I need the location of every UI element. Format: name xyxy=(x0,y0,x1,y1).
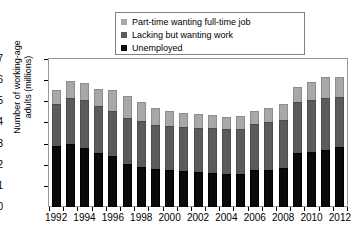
bar-stack xyxy=(208,115,217,207)
bar-stack xyxy=(165,111,174,207)
bar-segment-part-time xyxy=(194,114,203,128)
x-axis-tick-mark xyxy=(148,207,149,211)
bar-stack xyxy=(66,81,75,207)
bar-segment-lacking-wanting xyxy=(137,121,146,166)
bar-segment-lacking-wanting xyxy=(80,100,89,148)
bar-segment-unemployed xyxy=(165,170,174,207)
bar-segment-part-time xyxy=(151,108,160,125)
y-axis-tick-label: 6 xyxy=(0,75,3,85)
bar-segment-part-time xyxy=(307,82,316,100)
bar-segment-lacking-wanting xyxy=(250,124,259,171)
bar-segment-lacking-wanting xyxy=(108,111,117,156)
x-axis-tick-mark xyxy=(205,207,206,211)
bar-segment-unemployed xyxy=(52,146,61,207)
bar-segment-part-time xyxy=(222,117,231,129)
bar-stack xyxy=(321,77,330,207)
bar-segment-part-time xyxy=(179,113,188,127)
bar-segment-part-time xyxy=(66,81,75,98)
bar-segment-lacking-wanting xyxy=(321,98,330,150)
x-axis-tick-mark xyxy=(347,207,348,211)
bar-segment-lacking-wanting xyxy=(66,98,75,143)
y-axis-tick-mark xyxy=(44,80,48,81)
bar-segment-part-time xyxy=(208,115,217,128)
bar-segment-unemployed xyxy=(222,174,231,207)
x-axis-tick-label: 2012 xyxy=(320,212,356,224)
bar-segment-unemployed xyxy=(307,152,316,207)
y-axis-tick-label: 1 xyxy=(0,181,3,191)
bar-stack xyxy=(137,102,146,207)
x-axis-tick-mark xyxy=(163,207,164,211)
bar-stack xyxy=(194,114,203,207)
bar-segment-unemployed xyxy=(208,173,217,207)
x-axis-tick-mark xyxy=(92,207,93,211)
y-axis-tick-mark xyxy=(44,101,48,102)
bar-segment-lacking-wanting xyxy=(123,118,132,163)
bar-stack xyxy=(250,111,259,207)
bar-segment-part-time xyxy=(137,102,146,121)
x-axis-tick-mark xyxy=(134,207,135,211)
bar-stack xyxy=(307,82,316,207)
bar-segment-unemployed xyxy=(279,168,288,207)
x-axis-tick-mark xyxy=(333,207,334,211)
bar-segment-lacking-wanting xyxy=(307,100,316,152)
bar-segment-unemployed xyxy=(137,167,146,207)
x-axis-tick-mark xyxy=(120,207,121,211)
bar-stack xyxy=(151,108,160,207)
x-axis-tick-mark xyxy=(319,207,320,211)
bar-stack xyxy=(222,117,231,207)
bar-segment-lacking-wanting xyxy=(94,106,103,154)
y-axis-tick-label: 3 xyxy=(0,139,3,149)
bar-stack xyxy=(335,77,344,207)
bar-segment-unemployed xyxy=(264,170,273,207)
y-axis-tick-label: 5 xyxy=(0,96,3,106)
bar-stack xyxy=(279,104,288,207)
y-axis-tick-label: 7 xyxy=(0,54,3,64)
y-axis-tick-mark xyxy=(44,122,48,123)
x-axis-tick-mark xyxy=(262,207,263,211)
bar-stack xyxy=(293,87,302,207)
bar-segment-part-time xyxy=(293,87,302,103)
bar-segment-lacking-wanting xyxy=(165,126,174,170)
x-axis-tick-mark xyxy=(290,207,291,211)
bar-segment-lacking-wanting xyxy=(222,129,231,174)
y-axis-tick-mark xyxy=(44,165,48,166)
bar-segment-part-time xyxy=(123,96,132,118)
bar-segment-unemployed xyxy=(151,169,160,207)
x-axis-tick-mark xyxy=(276,207,277,211)
bar-segment-unemployed xyxy=(94,153,103,207)
y-axis-tick-label: 2 xyxy=(0,160,3,170)
stacked-bar-chart: Part-time wanting full-time job Lacking … xyxy=(0,0,356,231)
bar-segment-lacking-wanting xyxy=(179,127,188,171)
bar-segment-lacking-wanting xyxy=(335,97,344,147)
bar-segment-part-time xyxy=(52,90,61,105)
y-axis-tick-mark xyxy=(44,144,48,145)
bar-segment-part-time xyxy=(165,111,174,126)
bar-segment-unemployed xyxy=(66,144,75,207)
bar-segment-part-time xyxy=(80,83,89,100)
y-axis-tick-label: 4 xyxy=(0,117,3,127)
bar-segment-part-time xyxy=(321,77,330,98)
bar-stack xyxy=(94,89,103,207)
x-axis-labels: 1992199419961998200020022004200620082010… xyxy=(49,212,347,226)
x-axis-tick-mark xyxy=(77,207,78,211)
x-axis-tick-mark xyxy=(177,207,178,211)
x-axis-tick-mark xyxy=(106,207,107,211)
bar-segment-part-time xyxy=(236,116,245,129)
x-axis-tick-mark xyxy=(49,207,50,211)
bar-segment-unemployed xyxy=(123,164,132,207)
bar-segment-unemployed xyxy=(236,174,245,207)
bar-stack xyxy=(108,90,117,207)
bar-segment-unemployed xyxy=(179,171,188,207)
bar-segment-lacking-wanting xyxy=(194,128,203,172)
x-axis-tick-mark xyxy=(233,207,234,211)
bar-segment-unemployed xyxy=(321,150,330,207)
bar-segment-lacking-wanting xyxy=(264,122,273,170)
y-axis-tick-label: 0 xyxy=(0,202,3,212)
y-axis-tick-mark xyxy=(44,186,48,187)
bar-segment-lacking-wanting xyxy=(208,128,217,173)
bar-segment-lacking-wanting xyxy=(52,104,61,145)
bar-segment-unemployed xyxy=(335,147,344,207)
x-axis-tick-mark xyxy=(248,207,249,211)
bar-segment-unemployed xyxy=(293,153,302,207)
bar-segment-lacking-wanting xyxy=(279,120,288,168)
